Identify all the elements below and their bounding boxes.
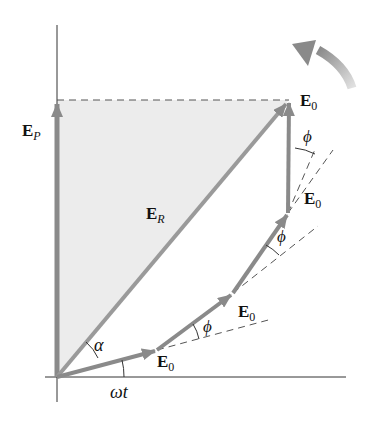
- er-label: ER: [146, 205, 165, 225]
- e0-label-top: E0: [300, 92, 317, 112]
- phasor-diagram: [0, 0, 370, 426]
- phi-label-3: ϕ: [303, 128, 312, 145]
- phi-arc-1: [193, 324, 199, 339]
- phi-arc-3: [295, 148, 315, 154]
- phi-label-1: ϕ: [203, 318, 212, 335]
- ep-label-main: E: [22, 121, 33, 140]
- e0-main: E: [304, 189, 315, 208]
- phi-label-2: ϕ: [277, 228, 286, 245]
- e0-main: E: [157, 352, 168, 371]
- dashed-extension-2: [233, 226, 318, 293]
- e0-sub: 0: [168, 360, 174, 374]
- e0-sub: 0: [315, 197, 321, 211]
- er-label-sub: R: [157, 212, 164, 226]
- e0-label-1: E0: [157, 353, 174, 373]
- phi-arc-2: [266, 245, 279, 255]
- rotation-arrowhead-icon: [292, 40, 316, 66]
- ep-label-sub: P: [33, 129, 40, 143]
- e0-label-2: E0: [238, 303, 255, 323]
- e0-sub: 0: [311, 99, 317, 113]
- omega-t-arc: [122, 360, 124, 377]
- alpha-label: α: [94, 336, 103, 354]
- e0-sub: 0: [249, 310, 255, 324]
- e0-label-3: E0: [304, 190, 321, 210]
- omega-t-label: ωt: [110, 383, 128, 401]
- phasor-2-arrow: [157, 295, 231, 350]
- e0-main: E: [300, 91, 311, 110]
- phasor-4-arrow: [288, 103, 289, 213]
- e0-main: E: [238, 302, 249, 321]
- ep-label: EP: [22, 122, 41, 142]
- er-label-main: E: [146, 204, 157, 223]
- rotation-arrow-icon: [318, 50, 352, 88]
